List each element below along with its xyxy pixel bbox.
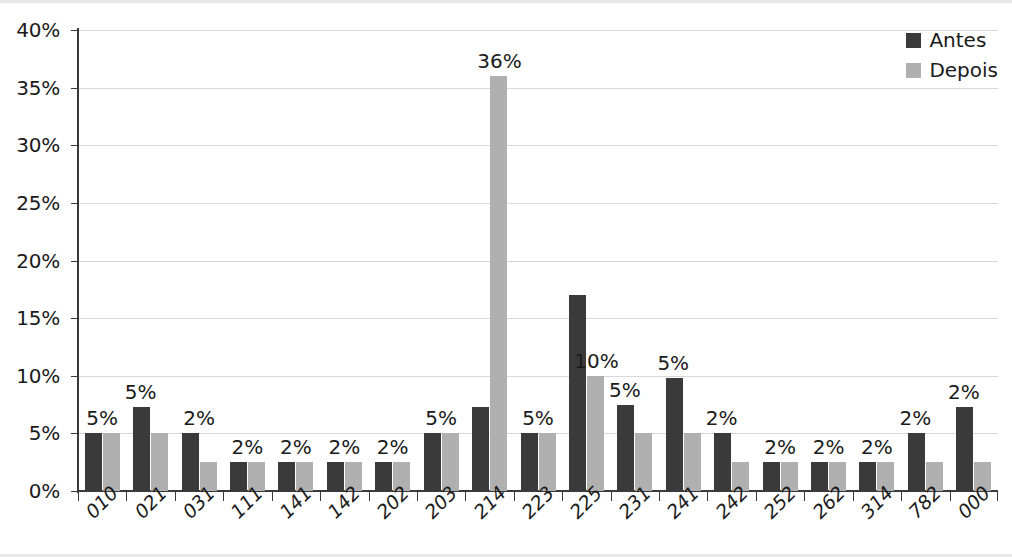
x-label-cell: 242 <box>707 503 755 557</box>
bar-group-142[interactable]: 2% <box>320 30 368 491</box>
bar-group-782[interactable]: 2% <box>901 30 949 491</box>
bar-value-label-202: 2% <box>377 437 409 457</box>
chart-legend: AntesDepois <box>906 28 998 82</box>
x-tick-mark <box>369 492 370 501</box>
bar-group-262[interactable]: 2% <box>804 30 852 491</box>
bar-depois-214[interactable] <box>490 76 507 491</box>
x-tick-mark <box>997 492 998 501</box>
bar-group-314[interactable]: 2% <box>853 30 901 491</box>
bar-group-141[interactable]: 2% <box>272 30 320 491</box>
bar-value-label-021: 5% <box>125 382 157 402</box>
bar-antes-782[interactable] <box>908 433 925 491</box>
legend-item-depois[interactable]: Depois <box>906 58 998 82</box>
x-axis-labels: 0100210311111411422022032142232252312412… <box>78 503 998 557</box>
y-axis-tick-label: 20% <box>16 249 60 273</box>
bar-group-202[interactable]: 2% <box>369 30 417 491</box>
legend-label: Antes <box>929 28 986 52</box>
x-label-cell: 010 <box>78 503 126 557</box>
x-tick-mark <box>78 492 79 501</box>
x-tick-mark <box>320 492 321 501</box>
legend-swatch-icon <box>906 63 921 78</box>
x-label-cell: 142 <box>320 503 368 557</box>
bar-value-label-262: 2% <box>813 437 845 457</box>
x-tick-mark <box>126 492 127 501</box>
bar-antes-021[interactable] <box>133 407 150 491</box>
bar-antes-242[interactable] <box>714 433 731 491</box>
bar-value-label-223: 5% <box>522 408 554 428</box>
bar-group-214[interactable]: 36% <box>465 30 513 491</box>
bar-group-242[interactable]: 2% <box>707 30 755 491</box>
bar-antes-141[interactable] <box>278 462 295 491</box>
x-label-cell: 314 <box>853 503 901 557</box>
bar-antes-231[interactable] <box>617 405 634 491</box>
x-tick-mark <box>756 492 757 501</box>
x-tick-mark <box>562 492 563 501</box>
bar-value-label-111: 2% <box>232 437 264 457</box>
bar-group-223[interactable]: 5% <box>514 30 562 491</box>
x-tick-mark <box>223 492 224 501</box>
bar-group-031[interactable]: 2% <box>175 30 223 491</box>
y-axis-tick-label: 10% <box>16 364 60 388</box>
y-axis-labels: 40%35%30%25%20%15%10%5%0% <box>0 0 72 557</box>
bar-value-label-782: 2% <box>900 408 932 428</box>
bar-group-241[interactable]: 5% <box>659 30 707 491</box>
x-tick-mark <box>272 492 273 501</box>
x-label-cell: 203 <box>417 503 465 557</box>
bar-antes-203[interactable] <box>424 433 441 491</box>
bar-antes-314[interactable] <box>859 462 876 491</box>
x-label-cell: 225 <box>562 503 610 557</box>
bar-group-111[interactable]: 2% <box>223 30 271 491</box>
x-tick-mark <box>659 492 660 501</box>
bar-value-label-252: 2% <box>764 437 796 457</box>
bar-group-010[interactable]: 5% <box>78 30 126 491</box>
bar-antes-142[interactable] <box>327 462 344 491</box>
bar-value-label-000: 2% <box>948 382 980 402</box>
x-label-cell: 141 <box>272 503 320 557</box>
bar-antes-252[interactable] <box>763 462 780 491</box>
legend-label: Depois <box>929 58 998 82</box>
bar-antes-010[interactable] <box>85 433 102 491</box>
bar-antes-202[interactable] <box>375 462 392 491</box>
y-axis-tick-label: 5% <box>29 421 60 445</box>
x-label-cell: 262 <box>804 503 852 557</box>
x-tick-mark <box>901 492 902 501</box>
bar-value-label-031: 2% <box>183 408 215 428</box>
legend-item-antes[interactable]: Antes <box>906 28 998 52</box>
x-label-cell: 031 <box>175 503 223 557</box>
bar-group-231[interactable]: 5% <box>611 30 659 491</box>
bar-group-021[interactable]: 5% <box>126 30 174 491</box>
bar-group-252[interactable]: 2% <box>756 30 804 491</box>
bar-value-label-203: 5% <box>425 408 457 428</box>
x-label-cell: 111 <box>223 503 271 557</box>
bar-value-label-241: 5% <box>657 353 689 373</box>
bar-group-225[interactable]: 10% <box>562 30 610 491</box>
x-tick-mark <box>804 492 805 501</box>
y-axis-tick-label: 25% <box>16 191 60 215</box>
y-axis-tick-label: 40% <box>16 18 60 42</box>
bar-value-label-314: 2% <box>861 437 893 457</box>
x-label-cell: 252 <box>756 503 804 557</box>
bar-antes-241[interactable] <box>666 378 683 491</box>
bar-depois-225[interactable] <box>587 376 604 491</box>
bar-value-label-010: 5% <box>86 408 118 428</box>
x-tick-mark <box>514 492 515 501</box>
x-tick-mark <box>611 492 612 501</box>
x-tick-mark <box>417 492 418 501</box>
bar-antes-031[interactable] <box>182 433 199 491</box>
bar-group-000[interactable]: 2% <box>950 30 998 491</box>
x-tick-mark <box>465 492 466 501</box>
bar-antes-214[interactable] <box>472 407 489 491</box>
bar-antes-223[interactable] <box>521 433 538 491</box>
legend-swatch-icon <box>906 33 921 48</box>
x-tick-mark <box>707 492 708 501</box>
bar-group-203[interactable]: 5% <box>417 30 465 491</box>
x-tick-mark <box>175 492 176 501</box>
x-label-cell: 021 <box>126 503 174 557</box>
bar-chart: 40%35%30%25%20%15%10%5%0% 5%5%2%2%2%2%2%… <box>0 0 1012 557</box>
bar-antes-262[interactable] <box>811 462 828 491</box>
bar-antes-000[interactable] <box>956 407 973 491</box>
bar-antes-225[interactable] <box>569 295 586 491</box>
bar-value-label-231: 5% <box>609 380 641 400</box>
x-label-cell: 202 <box>369 503 417 557</box>
bar-value-label-142: 2% <box>328 437 360 457</box>
